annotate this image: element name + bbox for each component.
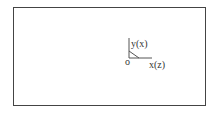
horizontal-axis-label: x(z) — [149, 59, 165, 71]
vertical-axis-label: y(x) — [131, 38, 148, 50]
diagonal-line — [129, 51, 139, 58]
axes-diagram: y(x) x(z) o — [0, 0, 219, 113]
origin-label: o — [125, 56, 130, 67]
